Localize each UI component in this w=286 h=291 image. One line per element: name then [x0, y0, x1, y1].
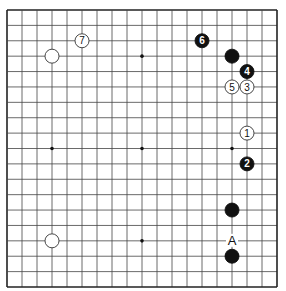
white-stone-icon	[45, 234, 59, 248]
move-number: 2	[244, 158, 250, 169]
move-number: 7	[79, 35, 85, 46]
star-point-icon	[140, 239, 144, 243]
star-point-icon	[50, 147, 54, 151]
black-stone-2: 2	[240, 157, 254, 171]
star-point-icon	[140, 147, 144, 151]
markers-layer: A	[226, 233, 238, 248]
move-number: 3	[244, 82, 250, 93]
move-number: 4	[244, 66, 250, 77]
black-stone	[225, 249, 239, 263]
move-number: 1	[244, 128, 250, 139]
star-point-icon	[230, 147, 234, 151]
black-stone-icon	[225, 249, 239, 263]
white-stone-icon	[45, 49, 59, 63]
go-board-diagram: 7645312 A	[0, 0, 286, 291]
white-stone	[45, 49, 59, 63]
point-marker-label: A	[228, 233, 237, 248]
black-stone-icon	[225, 203, 239, 217]
move-number: 5	[229, 82, 235, 93]
white-stone-7: 7	[75, 34, 89, 48]
black-stone	[225, 203, 239, 217]
black-stone	[225, 49, 239, 63]
white-stone-1: 1	[240, 126, 254, 140]
black-stone-6: 6	[195, 34, 209, 48]
white-stone	[45, 234, 59, 248]
white-stone-3: 3	[240, 80, 254, 94]
white-stone-5: 5	[225, 80, 239, 94]
black-stone-4: 4	[240, 65, 254, 79]
star-point-icon	[140, 54, 144, 58]
move-number: 6	[199, 35, 205, 46]
black-stone-icon	[225, 49, 239, 63]
